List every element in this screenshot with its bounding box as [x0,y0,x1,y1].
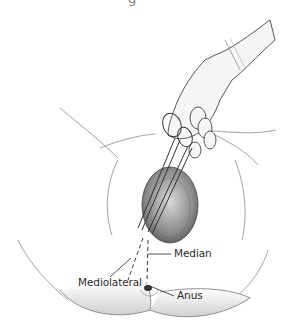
mediolateral-leader [110,258,131,277]
label-mediolateral: Mediolateral [78,276,142,288]
crowning-head [142,167,198,243]
gloved-hand [168,20,275,158]
median-incision [147,240,148,282]
episiotomy-illustration: g [0,0,289,336]
label-median: Median [174,247,212,259]
illustration-drawing [0,0,289,336]
anus-mark [144,285,152,291]
label-anus: Anus [177,289,203,301]
